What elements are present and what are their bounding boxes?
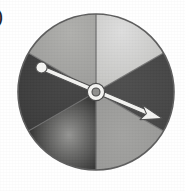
spinner-hub-center: [92, 88, 100, 96]
spinner-hub[interactable]: [87, 83, 104, 100]
spinner-wheel[interactable]: [0, 0, 185, 191]
figure-root: ): [0, 0, 185, 191]
spinner-arrow-tail-knob: [36, 62, 47, 73]
